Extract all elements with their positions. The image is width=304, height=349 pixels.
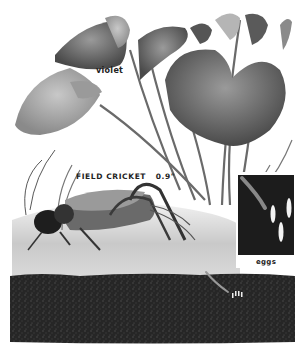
soil-cross-section [10,272,295,344]
eggs-label: eggs [256,258,276,266]
cricket-name: FIELD CRICKET [76,172,146,181]
cricket-size: 0.9" [156,172,176,181]
violet-leaves [15,13,292,146]
eggs-inset [236,172,296,268]
violet-label: violet [96,66,123,75]
cricket-label: FIELD CRICKET 0.9" [76,172,175,181]
field-guide-illustration: violet FIELD CRICKET 0.9" eggs [0,0,304,349]
